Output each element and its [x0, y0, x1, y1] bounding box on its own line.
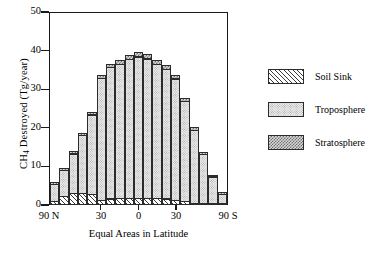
bar-segment-soil-sink	[180, 201, 189, 204]
bar-segment-soil-sink	[152, 198, 161, 205]
legend-label: Troposphere	[315, 104, 365, 115]
x-axis-tick-label: 90 N	[39, 210, 60, 221]
x-axis-tick-label: 0	[136, 210, 141, 221]
bar-segment-troposphere	[59, 170, 68, 197]
bar	[218, 13, 227, 204]
bar-segment-troposphere	[69, 154, 78, 194]
bar-segment-troposphere	[78, 135, 87, 194]
bar-segment-troposphere	[87, 115, 96, 196]
bar	[78, 13, 87, 204]
bar	[50, 13, 59, 204]
bar-segment-soil-sink	[59, 196, 68, 204]
bar-segment-troposphere	[180, 101, 189, 202]
bar-segment-troposphere	[162, 69, 171, 199]
y-axis-tick	[41, 166, 49, 167]
y-axis-tick-label: 10	[1, 160, 41, 171]
bar-segment-soil-sink	[78, 193, 87, 205]
bar-segment-soil-sink	[134, 198, 143, 205]
bar-segment-soil-sink	[208, 203, 217, 205]
x-axis-tick-label: 90 S	[219, 210, 238, 221]
y-axis-tick	[41, 204, 49, 205]
legend-item: Stratosphere	[268, 134, 374, 150]
bar-segment-troposphere	[97, 78, 106, 201]
bar-segment-troposphere	[134, 57, 143, 199]
y-axis-tick-label: 50	[1, 6, 41, 17]
bar-segment-troposphere	[106, 67, 115, 199]
bar	[115, 13, 124, 204]
y-axis-tick-label: 30	[1, 83, 41, 94]
legend-swatch	[268, 135, 304, 150]
bar-segment-troposphere	[143, 59, 152, 200]
chart-figure: CH4 Destroyed (Tg/year) 01020304050 90 N…	[0, 0, 376, 258]
bar	[152, 13, 161, 204]
y-axis-tick	[41, 127, 49, 128]
bar-segment-soil-sink	[190, 203, 199, 205]
y-axis-title-subscript: 4	[22, 150, 31, 154]
bar	[190, 13, 199, 204]
y-axis-tick	[41, 89, 49, 90]
bar	[143, 13, 152, 204]
y-axis-tick-label: 0	[1, 199, 41, 210]
bar	[69, 13, 78, 204]
bar-segment-troposphere	[208, 177, 217, 204]
bar	[180, 13, 189, 204]
x-axis-tick-label: 30	[96, 210, 107, 221]
bar-segment-troposphere	[199, 154, 208, 204]
bar	[97, 13, 106, 204]
bar-segment-soil-sink	[106, 199, 115, 205]
bar-segment-troposphere	[125, 59, 134, 199]
bar	[134, 13, 143, 204]
bar-segment-soil-sink	[199, 203, 208, 205]
bar	[171, 13, 180, 204]
bar	[106, 13, 115, 204]
legend-item: Troposphere	[268, 101, 374, 117]
y-axis-title-suffix: Destroyed (Tg/year)	[18, 58, 29, 150]
bar-segment-troposphere	[171, 79, 180, 201]
y-axis-tick-label: 40	[1, 45, 41, 56]
bar	[59, 13, 68, 204]
x-axis-title: Equal Areas in Latitude	[49, 228, 228, 239]
bar-group	[50, 13, 227, 204]
plot-area	[49, 12, 228, 205]
chart-legend: Soil SinkTroposphereStratosphere	[268, 68, 374, 167]
bar	[199, 13, 208, 204]
bar-segment-soil-sink	[125, 198, 134, 205]
bar	[87, 13, 96, 204]
legend-swatch	[268, 69, 304, 84]
bar-segment-troposphere	[152, 64, 161, 199]
bar-segment-soil-sink	[87, 194, 96, 204]
y-axis-tick	[41, 50, 49, 51]
bar	[162, 13, 171, 204]
legend-swatch	[268, 102, 304, 117]
bar	[208, 13, 217, 204]
legend-label: Stratosphere	[315, 137, 365, 148]
legend-item: Soil Sink	[268, 68, 374, 84]
bar-segment-troposphere	[50, 184, 59, 202]
x-axis-tick-label: 30	[171, 210, 182, 221]
y-axis-tick	[41, 11, 49, 12]
legend-label: Soil Sink	[315, 71, 352, 82]
bar-segment-soil-sink	[115, 198, 124, 205]
bar-segment-soil-sink	[162, 199, 171, 205]
bar-segment-soil-sink	[69, 193, 78, 205]
bar-segment-soil-sink	[50, 201, 59, 205]
bar-segment-troposphere	[115, 64, 124, 199]
bar-segment-troposphere	[190, 130, 199, 204]
bar	[125, 13, 134, 204]
y-axis-tick-label: 20	[1, 122, 41, 133]
bar-segment-soil-sink	[143, 198, 152, 205]
bar-segment-soil-sink	[218, 203, 227, 205]
